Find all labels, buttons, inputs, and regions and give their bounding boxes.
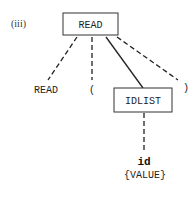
parse-tree-diagram: (iii) READ READ ( ) IDLIST id {VALUE} [0, 0, 193, 203]
leaf-id: id [137, 156, 150, 168]
edge-to-rparen [117, 37, 178, 80]
edge-to-read [48, 37, 77, 80]
leaf-read: READ [34, 85, 58, 96]
leaf-lparen: ( [89, 85, 95, 96]
root-node-label: READ [78, 20, 102, 31]
leaf-rparen: ) [183, 83, 189, 94]
idlist-node-label: IDLIST [125, 96, 161, 107]
leaf-id-attribute: {VALUE} [124, 170, 166, 181]
diagram-label: (iii) [11, 18, 26, 30]
edge-to-idlist [106, 37, 143, 88]
